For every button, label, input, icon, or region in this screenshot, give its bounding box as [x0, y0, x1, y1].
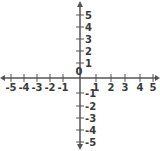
up-arrow-icon: [77, 1, 83, 7]
y-tick-label: 3: [85, 34, 92, 45]
left-arrow-icon: [0, 75, 5, 81]
y-tick-label: -4: [85, 125, 96, 136]
x-tick-label: -2: [44, 82, 55, 93]
origin-label: 0: [76, 66, 83, 77]
x-tick-label: -1: [57, 82, 68, 93]
tick-labels: -5-4-3-2-11234554321-1-2-3-4-50: [5, 10, 156, 148]
down-arrow-icon: [77, 144, 83, 150]
x-tick-label: -5: [5, 82, 16, 93]
x-tick-label: 5: [150, 82, 157, 93]
y-tick-label: 1: [85, 58, 92, 69]
x-tick-label: 3: [122, 82, 129, 93]
y-tick-label: -1: [85, 88, 96, 99]
y-tick-label: -5: [85, 137, 96, 148]
x-tick-label: 4: [137, 82, 144, 93]
y-tick-label: -3: [85, 113, 96, 124]
y-tick-label: -2: [85, 101, 96, 112]
x-tick-label: -4: [18, 82, 29, 93]
coordinate-plane: -5-4-3-2-11234554321-1-2-3-4-50: [0, 0, 160, 151]
right-arrow-icon: [155, 75, 160, 81]
y-tick-label: 2: [85, 46, 92, 57]
x-tick-label: -3: [31, 82, 42, 93]
x-tick-label: 2: [108, 82, 115, 93]
y-tick-label: 5: [85, 10, 92, 21]
y-tick-label: 4: [85, 22, 92, 33]
